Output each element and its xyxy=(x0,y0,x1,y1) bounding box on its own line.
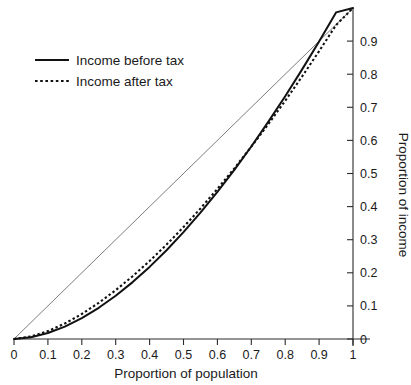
x-tick-label-0.6: 0.6 xyxy=(209,348,226,362)
y-tick-label-0.8: 0.8 xyxy=(360,68,377,82)
x-tick-label-0.9: 0.9 xyxy=(310,348,327,362)
x-axis-title: Proportion of population xyxy=(114,366,257,381)
x-axis-tick-labels: 0 0.1 0.2 0.3 0.4 0.5 0.6 0.7 0.8 0.9 1 xyxy=(11,348,357,362)
y-tick-label-0.6: 0.6 xyxy=(360,134,377,148)
y-tick-label-0.1: 0.1 xyxy=(360,299,377,313)
y-tick-label-0.9: 0.9 xyxy=(360,35,377,49)
x-tick-label-0.8: 0.8 xyxy=(277,348,294,362)
x-axis-ticks xyxy=(14,339,353,345)
y-tick-label-0.5: 0.5 xyxy=(360,167,377,181)
x-tick-label-0.4: 0.4 xyxy=(141,348,158,362)
y-axis-tick-labels: 0 0.1 0.2 0.3 0.4 0.5 0.6 0.7 0.8 0.9 xyxy=(360,35,377,347)
lorenz-curve-chart: 0 0.1 0.2 0.3 0.4 0.5 0.6 0.7 0.8 0.9 1 xyxy=(0,0,411,385)
axes-group xyxy=(14,8,370,346)
x-tick-label-1: 1 xyxy=(350,348,357,362)
x-tick-label-0.2: 0.2 xyxy=(73,348,90,362)
y-tick-label-0.7: 0.7 xyxy=(360,101,377,115)
x-tick-label-0.5: 0.5 xyxy=(175,348,192,362)
legend-label-income-before-tax: Income before tax xyxy=(76,53,184,68)
x-tick-label-0.3: 0.3 xyxy=(107,348,124,362)
x-tick-label-0: 0 xyxy=(11,348,18,362)
y-tick-label-0: 0 xyxy=(360,333,367,347)
y-tick-label-0.3: 0.3 xyxy=(360,233,377,247)
y-tick-label-0.4: 0.4 xyxy=(360,200,377,214)
chart-legend: Income before tax Income after tax xyxy=(35,53,184,89)
chart-canvas: 0 0.1 0.2 0.3 0.4 0.5 0.6 0.7 0.8 0.9 1 xyxy=(0,0,411,385)
y-axis-title: Proportion of income xyxy=(396,133,411,258)
y-tick-label-0.2: 0.2 xyxy=(360,266,377,280)
x-tick-label-0.7: 0.7 xyxy=(243,348,260,362)
y-axis-ticks xyxy=(347,41,353,339)
x-tick-label-0.1: 0.1 xyxy=(39,348,56,362)
legend-label-income-after-tax: Income after tax xyxy=(76,74,173,89)
